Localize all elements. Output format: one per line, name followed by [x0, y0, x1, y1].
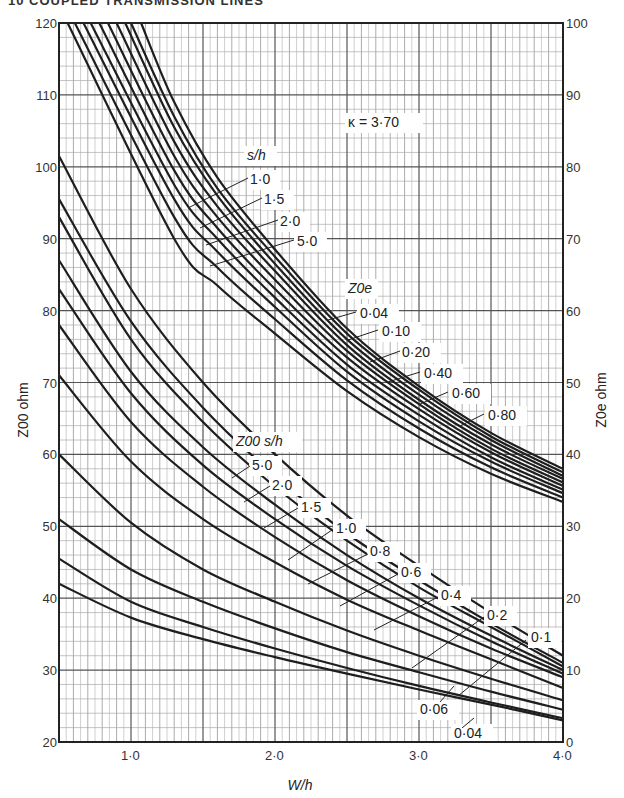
zoo-label: 5·0	[252, 457, 272, 473]
design-chart: κ = 3·70s/h1·01·52·05·0Z0e0·040·100·200·…	[0, 0, 624, 798]
zoo-label: 1·5	[301, 499, 321, 515]
y-right-tick-label: 40	[566, 447, 580, 462]
y-right-tick-label: 0	[566, 735, 573, 750]
zoo-label: 0·04	[454, 725, 482, 741]
y-left-tick-label: 80	[43, 304, 57, 319]
y-left-tick-label: 100	[35, 160, 57, 175]
zoe-label: 0·10	[382, 323, 410, 339]
y-left-tick-label: 50	[43, 519, 57, 534]
y-left-tick-label: 60	[43, 447, 57, 462]
zoe-curve	[141, 23, 563, 469]
y-right-tick-label: 90	[566, 88, 580, 103]
zoo-legend-title: Z00 s/h	[235, 433, 283, 449]
zoo-label: 0·4	[441, 587, 461, 603]
x-axis-title: W/h	[288, 777, 313, 793]
y-right-tick-label: 60	[566, 304, 580, 319]
zoe-label: 0·80	[488, 407, 516, 423]
y-left-tick-label: 110	[36, 88, 57, 103]
y-right-axis-title: Z0e ohm	[593, 372, 609, 427]
leader-line	[244, 486, 270, 502]
zoe-label: 0·20	[402, 344, 430, 360]
zoe-legend-title: Z0e	[347, 280, 372, 296]
zoo-label: 2·0	[272, 477, 292, 493]
x-tick-label: 2·0	[265, 748, 284, 763]
y-left-tick-label: 90	[43, 232, 57, 247]
zoo-label: 0·8	[370, 543, 390, 559]
leader-line	[232, 466, 250, 478]
sh-label: 5·0	[297, 233, 317, 249]
y-right-tick-label: 30	[566, 519, 580, 534]
x-tick-label: 3·0	[409, 748, 428, 763]
sh-label: 2·0	[280, 213, 300, 229]
y-left-tick-label: 40	[43, 591, 57, 606]
y-left-tick-label: 20	[43, 735, 57, 750]
zoe-label: 0·60	[452, 385, 480, 401]
zoo-label: 0·1	[531, 629, 551, 645]
zoo-label: 0·6	[401, 564, 421, 580]
zoe-curve	[75, 23, 563, 498]
y-right-tick-label: 50	[566, 376, 580, 391]
y-right-tick-label: 80	[566, 160, 580, 175]
kappa-annotation: κ = 3·70	[348, 114, 399, 130]
zoo-label: 0·2	[487, 607, 507, 623]
leader-line	[308, 554, 368, 584]
y-right-tick-label: 20	[566, 591, 580, 606]
y-left-axis-title: Z00 ohm	[15, 382, 31, 437]
zoe-label: 0·40	[424, 365, 452, 381]
x-tick-label: 4·0	[553, 748, 572, 763]
sh-label: 1·5	[264, 191, 284, 207]
zoo-label: 1·0	[336, 520, 356, 536]
y-left-tick-label: 70	[43, 376, 57, 391]
y-left-tick-label: 120	[35, 16, 57, 31]
y-right-tick-label: 10	[566, 663, 580, 678]
x-tick-label: 1·0	[121, 748, 140, 763]
zoo-label: 0·06	[420, 701, 448, 717]
sh-label: 1·0	[250, 171, 270, 187]
y-left-tick-label: 30	[43, 663, 57, 678]
sh-legend-title: s/h	[247, 147, 266, 163]
y-right-tick-label: 100	[566, 16, 588, 31]
zoe-label: 0·04	[360, 305, 388, 321]
y-right-tick-label: 70	[566, 232, 580, 247]
